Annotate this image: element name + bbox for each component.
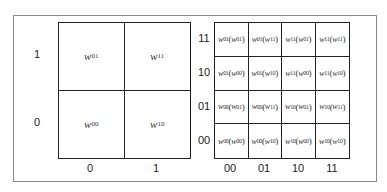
right-cell: w01(w01) xyxy=(215,23,249,57)
left-y-label-1: 1 xyxy=(27,48,47,60)
right-y-label-10: 10 xyxy=(194,66,214,78)
left-cell-w11: w11 xyxy=(125,23,191,91)
right-cell: w10(w11) xyxy=(316,91,350,125)
left-x-label-1: 1 xyxy=(146,162,166,174)
right-cell: w11(w00) xyxy=(282,57,316,91)
right-cell: w11(w10) xyxy=(316,57,350,91)
right-cell: w00(w11) xyxy=(249,91,283,125)
right-x-label-01: 01 xyxy=(254,162,274,174)
left-cell-w00: w00 xyxy=(59,91,125,159)
left-cell-w10: w10 xyxy=(125,91,191,159)
right-x-label-11: 11 xyxy=(322,162,342,174)
right-cell: w00(w00) xyxy=(215,124,249,158)
right-y-label-01: 01 xyxy=(194,100,214,112)
right-x-label-00: 00 xyxy=(220,162,240,174)
right-cell: w00(w10) xyxy=(249,124,283,158)
right-cell: w01(w11) xyxy=(249,23,283,57)
right-cell: w00(w01) xyxy=(215,91,249,125)
left-x-label-0: 0 xyxy=(80,162,100,174)
right-cell: w10(w01) xyxy=(282,91,316,125)
right-cell: w01(w00) xyxy=(215,57,249,91)
left-y-label-0: 0 xyxy=(27,116,47,128)
left-grid: w01 w11 w00 w10 xyxy=(58,22,191,159)
right-grid: w01(w01) w01(w11) w11(w01) w11(w11) w01(… xyxy=(214,22,350,159)
right-cell: w10(w00) xyxy=(282,124,316,158)
right-cell: w10(w10) xyxy=(316,124,350,158)
right-y-label-00: 00 xyxy=(194,134,214,146)
right-cell: w11(w01) xyxy=(282,23,316,57)
right-cell: w11(w11) xyxy=(316,23,350,57)
left-cell-w01: w01 xyxy=(59,23,125,91)
right-x-label-10: 10 xyxy=(288,162,308,174)
right-cell: w01(w10) xyxy=(249,57,283,91)
right-y-label-11: 11 xyxy=(194,32,214,44)
